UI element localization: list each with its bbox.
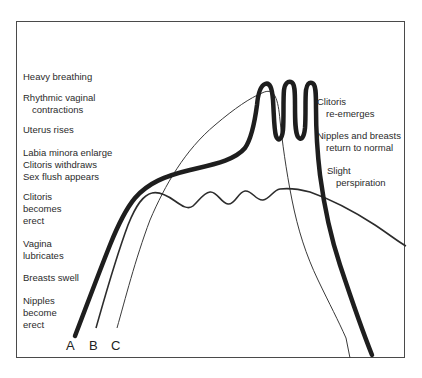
curve-a	[75, 82, 372, 355]
label-labia-clitoris-sexflush: Labia minora enlarge Clitoris withdraws …	[23, 147, 112, 183]
label-nipples-breasts-return: Nipples and breasts return to normal	[317, 130, 401, 154]
curve-letter-c: C	[111, 339, 120, 353]
label-uterus-rises: Uterus rises	[23, 124, 74, 136]
response-curves-plot	[0, 0, 422, 378]
label-heavy-breathing: Heavy breathing	[23, 71, 92, 83]
label-vagina-lubricates: Vagina lubricates	[23, 238, 64, 262]
label-clitoris-re-emerges: Clitoris re-emerges	[317, 96, 375, 120]
curve-letter-a: A	[66, 339, 75, 353]
label-breasts-swell: Breasts swell	[23, 272, 79, 284]
label-nipples-become-erect: Nipples become erect	[23, 295, 57, 331]
label-rhythmic-vaginal-contractions: Rhythmic vaginal contractions	[23, 92, 95, 116]
curve-b	[96, 188, 406, 328]
label-clitoris-becomes-erect: Clitoris becomes erect	[23, 191, 62, 227]
curve-letter-b: B	[89, 339, 98, 353]
label-slight-perspiration: Slight perspiration	[327, 165, 386, 189]
